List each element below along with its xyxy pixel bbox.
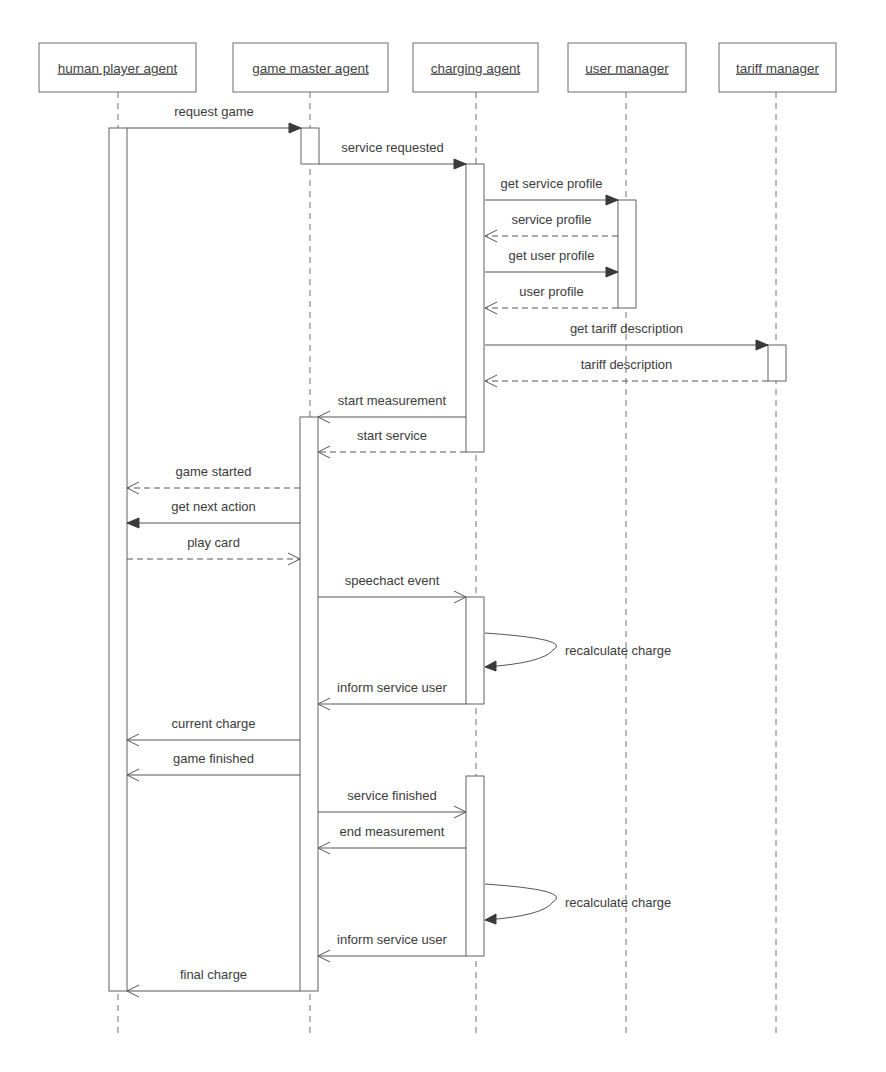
participant-tariff: tariff manager: [719, 43, 836, 92]
message-label: start service: [357, 428, 427, 443]
message-label: service finished: [347, 788, 437, 803]
participant-label: tariff manager: [736, 61, 820, 76]
participants: human player agentgame master agentcharg…: [39, 43, 836, 92]
activation-bar-human: [109, 128, 127, 991]
message-label: start measurement: [338, 393, 447, 408]
message: get service profile: [485, 176, 618, 205]
message: play card: [127, 535, 300, 565]
participant-label: game master agent: [252, 61, 369, 76]
self-message-label: recalculate charge: [565, 895, 671, 910]
message-label: speechact event: [345, 573, 440, 588]
message: inform service user: [318, 932, 466, 962]
message: inform service user: [318, 680, 466, 710]
message-label: get user profile: [509, 248, 595, 263]
message: get next action: [127, 499, 300, 528]
arrowhead-filled-icon: [127, 518, 139, 528]
message-label: service requested: [341, 140, 444, 155]
message: get user profile: [485, 248, 618, 277]
activation-bar-gm: [300, 417, 318, 991]
message: start measurement: [318, 393, 466, 423]
participant-user: user manager: [568, 43, 686, 92]
message: service requested: [319, 140, 466, 169]
message: game started: [127, 464, 300, 494]
arrowhead-filled-icon: [289, 123, 301, 133]
activation-bar-user: [618, 200, 636, 308]
self-message: recalculate charge: [485, 633, 671, 671]
message-label: game finished: [173, 751, 254, 766]
arrowhead-filled-icon: [606, 195, 618, 205]
activation-bar-charging: [466, 776, 484, 956]
participant-label: user manager: [585, 61, 669, 76]
message-label: tariff description: [581, 357, 673, 372]
messages: request gameservice requestedget service…: [127, 104, 768, 997]
message: service profile: [485, 212, 618, 242]
message: request game: [127, 104, 301, 133]
message-label: get tariff description: [570, 321, 683, 336]
message-label: final charge: [180, 967, 247, 982]
arrowhead-filled-icon: [485, 914, 496, 924]
activation-bar-gm: [301, 128, 319, 164]
message: user profile: [485, 284, 618, 314]
participant-charging: charging agent: [413, 43, 538, 92]
activation-bar-tariff: [768, 345, 786, 381]
message: start service: [318, 428, 466, 458]
message-label: user profile: [519, 284, 583, 299]
participant-label: human player agent: [58, 61, 178, 76]
message: current charge: [127, 716, 300, 746]
message-label: inform service user: [337, 680, 447, 695]
message-label: end measurement: [340, 824, 445, 839]
message: speechact event: [318, 573, 466, 603]
self-message-label: recalculate charge: [565, 643, 671, 658]
participant-human: human player agent: [39, 43, 196, 92]
message-label: inform service user: [337, 932, 447, 947]
activation-bar-charging: [466, 164, 484, 452]
message-label: play card: [187, 535, 240, 550]
sequence-diagram: human player agentgame master agentcharg…: [0, 0, 886, 1072]
message: end measurement: [318, 824, 466, 854]
activation-bar-charging: [466, 597, 484, 704]
message-label: request game: [174, 104, 254, 119]
message-label: get service profile: [501, 176, 603, 191]
lifelines: [118, 92, 776, 1035]
message: final charge: [127, 967, 300, 997]
arrowhead-filled-icon: [606, 267, 618, 277]
message-label: current charge: [172, 716, 256, 731]
participant-label: charging agent: [431, 61, 521, 76]
message-label: game started: [176, 464, 252, 479]
message: game finished: [127, 751, 300, 781]
participant-gm: game master agent: [233, 43, 388, 92]
message: service finished: [318, 788, 466, 818]
arrowhead-filled-icon: [485, 661, 496, 671]
arrowhead-filled-icon: [454, 159, 466, 169]
message-label: service profile: [511, 212, 591, 227]
self-message: recalculate charge: [485, 884, 671, 924]
message-label: get next action: [171, 499, 256, 514]
arrowhead-filled-icon: [756, 340, 768, 350]
